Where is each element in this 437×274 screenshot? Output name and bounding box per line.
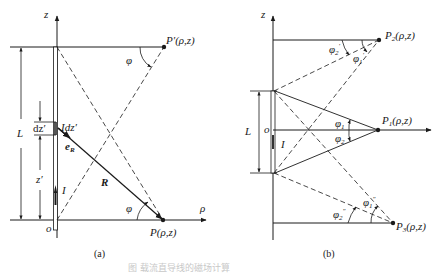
point-p-prime-label: P′(ρ,z) <box>165 34 195 47</box>
length-label-b: L <box>244 125 251 137</box>
point-p-label: P(ρ,z) <box>149 226 177 239</box>
panel-b-label: (b) <box>323 248 335 260</box>
length-label-a: L <box>16 127 23 139</box>
angle-arc-top-a <box>140 47 151 67</box>
current-element-a <box>54 122 58 135</box>
dashed-wire-top-to-p3 <box>274 91 393 223</box>
origin-label-a: o <box>46 222 52 234</box>
point-p2-label: P2(ρ,z) <box>384 29 415 43</box>
r-vector-label: R <box>100 176 108 188</box>
current-label-a: I <box>61 184 67 196</box>
panel-a-label: (a) <box>94 248 105 260</box>
line-wire-top-to-p1 <box>275 91 378 130</box>
dz-label: dz′ <box>33 122 46 134</box>
z-axis-label-b: z <box>260 8 266 20</box>
rho-axis-label-a: ρ <box>199 202 205 214</box>
z-prime-label: z′ <box>35 173 43 185</box>
angle-label-phi2: φ2 <box>335 132 345 146</box>
point-p1-label: P1(ρ,z) <box>381 114 412 128</box>
dashed-wire-bottom-to-p2 <box>274 40 379 173</box>
angle-label-bottom-a: φ <box>126 202 132 214</box>
angle-arc-phi2-dprime <box>348 207 356 223</box>
panel-b: z P2(ρ,z) I o L P1(ρ,z) φ1 φ2 φ2′ <box>244 8 431 260</box>
angle-label-phi1-prime: φ1′ <box>353 51 365 66</box>
dashed-line-a2 <box>57 47 164 220</box>
angle-arc-phi2-prime <box>342 40 349 55</box>
z-axis-label-a: z <box>43 8 49 20</box>
panel-a: z P′(ρ,z) ρ P(ρ,z) o I dz′ Idz′ L z′ <box>10 8 206 260</box>
angle-label-phi2-prime: φ2′ <box>329 42 341 57</box>
r-vector <box>58 128 162 219</box>
current-marker-b <box>272 135 274 149</box>
angle-label-top-a: φ <box>126 54 132 66</box>
figure-canvas: z P′(ρ,z) ρ P(ρ,z) o I dz′ Idz′ L z′ <box>0 0 437 274</box>
current-label-b: I <box>280 138 286 150</box>
angle-label-phi1-dprime: φ1″ <box>363 195 376 210</box>
angle-arc-phi1 <box>349 120 350 130</box>
angle-label-phi1: φ1 <box>335 117 345 131</box>
dashed-wire-top-to-p2 <box>274 40 379 91</box>
angle-arc-phi2 <box>349 130 350 141</box>
wire-b <box>271 91 275 173</box>
origin-label-b: o <box>264 123 270 135</box>
dashed-line-a1 <box>57 47 163 220</box>
line-wire-bottom-to-p1 <box>275 130 378 173</box>
point-p3-label: P3(ρ,z) <box>395 220 426 234</box>
angle-label-phi2-dprime: φ2″ <box>333 207 346 222</box>
figure-caption: 图 载流直导线的磁场计算 <box>128 262 230 273</box>
